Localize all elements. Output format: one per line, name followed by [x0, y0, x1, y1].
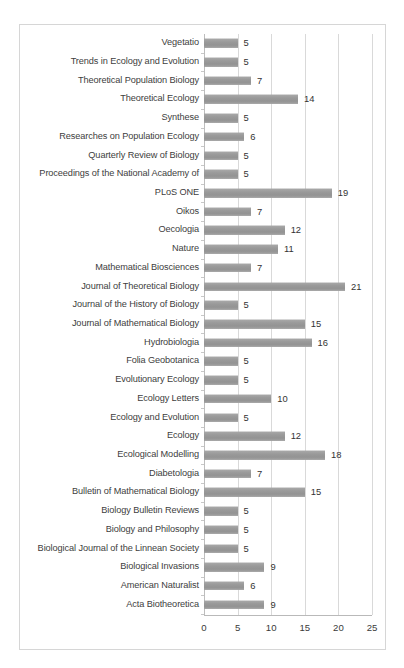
category-label: Oecologia	[159, 226, 199, 235]
category-label: Oikos	[176, 207, 199, 216]
bar-value-label: 16	[318, 338, 328, 347]
bar-value-label: 6	[250, 132, 255, 141]
bar	[204, 245, 278, 254]
category-label: Biology and Philosophy	[106, 525, 199, 534]
gridline-25	[372, 34, 373, 615]
category-label: Synthese	[161, 114, 199, 123]
bar-row: Theoretical Ecology14	[204, 90, 372, 109]
category-label: American Naturalist	[121, 581, 199, 590]
bar-row: Mathematical Biosciences7	[204, 259, 372, 278]
bar	[204, 600, 264, 609]
bar-row: Folia Geobotanica5	[204, 352, 372, 371]
bar	[204, 207, 251, 216]
bar	[204, 282, 345, 291]
bar	[204, 39, 238, 48]
bar	[204, 376, 238, 385]
category-label: Bulletin of Mathematical Biology	[72, 488, 199, 497]
category-label: Acta Biotheoretica	[126, 600, 199, 609]
bar-value-label: 5	[244, 170, 249, 179]
x-tick-label-20: 20	[333, 623, 344, 633]
category-label: Mathematical Biosciences	[95, 263, 199, 272]
category-label: Diabetologia	[149, 469, 199, 478]
bar-value-label: 15	[311, 319, 321, 328]
bar-value-label: 5	[244, 151, 249, 160]
category-label: Proceedings of the National Academy of	[39, 170, 199, 179]
bar-row: Journal of Theoretical Biology21	[204, 277, 372, 296]
bar	[204, 526, 238, 535]
bar	[204, 77, 251, 86]
bar	[204, 544, 238, 553]
bar-row: Ecology12	[204, 427, 372, 446]
chart-frame: Vegetatio5Trends in Ecology and Evolutio…	[19, 24, 386, 650]
bar	[204, 357, 238, 366]
bar-value-label: 7	[257, 76, 262, 85]
bar-value-label: 7	[257, 207, 262, 216]
x-tick-label-5: 5	[235, 623, 240, 633]
bar-row: Bulletin of Mathematical Biology15	[204, 483, 372, 502]
category-label: Trends in Ecology and Evolution	[71, 57, 199, 66]
bar-row: Theoretical Population Biology7	[204, 71, 372, 90]
bar-row: Biological Invasions9	[204, 558, 372, 577]
category-label: Biology Bulletin Reviews	[101, 507, 199, 516]
bar-value-label: 5	[244, 413, 249, 422]
bar	[204, 95, 298, 104]
bar	[204, 58, 238, 67]
bar	[204, 189, 332, 198]
category-label: Ecology and Evolution	[110, 413, 199, 422]
bar-value-label: 5	[244, 375, 249, 384]
bar-value-label: 12	[291, 432, 301, 441]
category-label: Nature	[172, 245, 199, 254]
bar	[204, 301, 238, 310]
value-axis-line	[204, 615, 372, 616]
bar-row: Journal of the History of Biology5	[204, 296, 372, 315]
bar-row: Nature11	[204, 240, 372, 259]
bar	[204, 264, 251, 273]
bar-value-label: 9	[270, 563, 275, 572]
bar-row: Trends in Ecology and Evolution5	[204, 53, 372, 72]
bar-row: American Naturalist6	[204, 577, 372, 596]
bar-value-label: 7	[257, 469, 262, 478]
bar-row: Oecologia12	[204, 221, 372, 240]
bar	[204, 451, 325, 460]
bar	[204, 413, 238, 422]
bar-value-label: 7	[257, 263, 262, 272]
category-label: Ecology Letters	[137, 394, 199, 403]
bar-value-label: 5	[244, 544, 249, 553]
bar-value-label: 5	[244, 357, 249, 366]
bar-value-label: 5	[244, 39, 249, 48]
bar-value-label: 5	[244, 113, 249, 122]
bar-row: Evolutionary Ecology5	[204, 371, 372, 390]
bar-value-label: 15	[311, 488, 321, 497]
bar-value-label: 14	[304, 95, 314, 104]
bar-row: Ecological Modelling18	[204, 446, 372, 465]
category-label: Biological Invasions	[120, 563, 199, 572]
bar	[204, 432, 285, 441]
category-label: Evolutionary Ecology	[115, 376, 199, 385]
bar-value-label: 5	[244, 301, 249, 310]
bar	[204, 395, 271, 404]
bar-value-label: 6	[250, 581, 255, 590]
x-tick-label-15: 15	[299, 623, 310, 633]
bar-value-label: 10	[277, 394, 287, 403]
bar	[204, 338, 312, 347]
bar	[204, 151, 238, 160]
bar	[204, 170, 238, 179]
bar	[204, 582, 244, 591]
bar	[204, 507, 238, 516]
category-label: Hydrobiologia	[144, 338, 199, 347]
category-label: Biological Journal of the Linnean Societ…	[38, 544, 199, 553]
bar-value-label: 18	[331, 450, 341, 459]
bar-value-label: 9	[270, 600, 275, 609]
x-tick-label-0: 0	[201, 623, 206, 633]
bar	[204, 133, 244, 142]
bar-value-label: 21	[351, 282, 361, 291]
bar-row: Hydrobiologia16	[204, 333, 372, 352]
bar-row: Acta Biotheoretica9	[204, 595, 372, 614]
bar-row: Quarterly Review of Biology5	[204, 146, 372, 165]
bar-value-label: 5	[244, 57, 249, 66]
bar-value-label: 5	[244, 506, 249, 515]
bar	[204, 114, 238, 123]
x-tick-label-25: 25	[367, 623, 378, 633]
category-label: PLoS ONE	[155, 188, 199, 197]
bar	[204, 488, 305, 497]
